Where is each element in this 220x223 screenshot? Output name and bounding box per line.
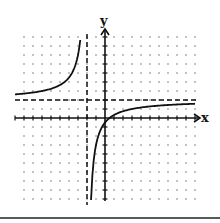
grid-dot [86,135,88,137]
grid-dot [131,171,133,173]
grid-dot [59,135,61,137]
grid-dot [59,153,61,155]
grid-dot [41,144,43,146]
grid-dot [176,63,178,65]
grid-dot [149,108,151,110]
grid-dot [77,90,79,92]
grid-dot [50,189,52,191]
grid-dot [140,81,142,83]
grid-dot [140,144,142,146]
grid-dot [59,108,61,110]
grid-dot [50,45,52,47]
grid-dot [95,72,97,74]
grid-dot [149,189,151,191]
grid-dot [23,153,25,155]
grid-dot [59,162,61,164]
grid-dot [122,81,124,83]
grid-dot [86,72,88,74]
grid-dot [41,108,43,110]
grid-dot [68,135,70,137]
grid-dot [41,153,43,155]
grid-dot [194,189,196,191]
grid-dot [149,63,151,65]
grid-dot [149,90,151,92]
grid-dot [23,54,25,56]
grid-dot [194,135,196,137]
grid-dot [194,108,196,110]
grid-dot [140,153,142,155]
grid-dot [59,198,61,200]
grid-dot [158,180,160,182]
grid-dot [68,144,70,146]
grid-dot [77,171,79,173]
grid-dot [194,144,196,146]
grid-dot [131,81,133,83]
grid-dot [41,81,43,83]
grid-dot [41,162,43,164]
grid-dot [95,45,97,47]
grid-dot [140,126,142,128]
grid-dot [140,135,142,137]
grid-dot [95,36,97,38]
grid-dot [41,189,43,191]
grid-dot [32,189,34,191]
grid-dot [185,90,187,92]
grid-dot [176,72,178,74]
grid-dot [68,90,70,92]
grid-dot [122,135,124,137]
grid-dot [32,72,34,74]
grid-dot [77,108,79,110]
grid-dot [158,135,160,137]
grid-dot [176,81,178,83]
grid-dot [23,180,25,182]
grid-dot [68,54,70,56]
grid-dot [23,108,25,110]
grid-dot [185,45,187,47]
grid-dot [176,171,178,173]
grid-dot [158,171,160,173]
grid-dot [194,63,196,65]
grid-dot [68,189,70,191]
grid-dot [194,126,196,128]
grid-dot [32,81,34,83]
grid-dot [194,36,196,38]
grid-dot [185,162,187,164]
grid-dot [140,90,142,92]
grid-dot [41,72,43,74]
grid-dot [95,126,97,128]
grid-dot [113,189,115,191]
grid-dot [113,126,115,128]
grid-dot [23,90,25,92]
grid-dot [122,171,124,173]
grid-dot [77,63,79,65]
grid-dot [113,81,115,83]
grid-dot [131,180,133,182]
grid-dot [68,162,70,164]
grid-dot [113,63,115,65]
grid-dot [68,108,70,110]
grid-dot [59,171,61,173]
grid-dot [131,153,133,155]
grid-dot [176,189,178,191]
grid-dot [122,90,124,92]
grid-dot [113,108,115,110]
grid-dot [50,54,52,56]
grid-dot [194,171,196,173]
grid-dot [149,81,151,83]
hyperbola-chart: x y [0,0,220,223]
grid-dot [158,198,160,200]
grid-dot [41,63,43,65]
grid-dot [140,72,142,74]
grid-dot [185,198,187,200]
grid-dot [50,63,52,65]
grid-dot [59,36,61,38]
grid-dot [140,198,142,200]
grid-dot [185,189,187,191]
grid-dot [95,63,97,65]
grid-dot [158,72,160,74]
grid-dot [122,36,124,38]
grid-dot [194,180,196,182]
grid-dot [77,189,79,191]
grid-dot [68,72,70,74]
grid-dot [122,108,124,110]
